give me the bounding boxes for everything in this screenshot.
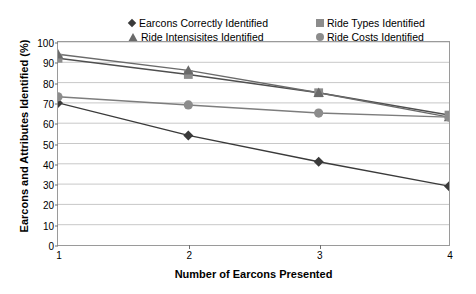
x-axis-title: Number of Earcons Presented bbox=[57, 268, 450, 280]
data-point-marker bbox=[184, 100, 193, 109]
y-axis-tick-label: 0 bbox=[48, 241, 54, 252]
data-point-marker bbox=[314, 108, 323, 117]
y-axis-tick-mark bbox=[55, 246, 58, 247]
y-axis-tick-label: 60 bbox=[43, 119, 54, 130]
y-axis-tick-mark bbox=[55, 205, 58, 206]
y-axis-tick-mark bbox=[55, 63, 58, 64]
y-axis-tick-mark bbox=[55, 83, 58, 84]
circle-marker-icon bbox=[316, 33, 324, 41]
x-axis-tick-label: 3 bbox=[317, 250, 323, 261]
plot-area: 01020304050607080901001234 bbox=[57, 41, 450, 246]
y-axis-tick-mark bbox=[55, 164, 58, 165]
data-point-marker bbox=[314, 157, 324, 167]
y-axis-tick-mark bbox=[55, 43, 58, 44]
data-point-marker bbox=[444, 181, 449, 191]
series-line bbox=[58, 97, 449, 117]
x-axis-tick-label: 2 bbox=[187, 250, 193, 261]
legend-label: Ride Types Identified bbox=[327, 17, 425, 29]
y-axis-tick-label: 20 bbox=[43, 200, 54, 211]
legend-label: Earcons Correctly Identified bbox=[139, 17, 268, 29]
series-line bbox=[58, 54, 449, 117]
y-axis-title: Earcons and Attributes Identified (%) bbox=[18, 20, 30, 252]
square-marker-icon bbox=[316, 19, 324, 27]
y-axis-tick-label: 40 bbox=[43, 159, 54, 170]
legend-item-ride-types-identified: Ride Types Identified bbox=[316, 16, 425, 30]
y-axis-tick-mark bbox=[55, 124, 58, 125]
y-axis-tick-label: 100 bbox=[37, 38, 54, 49]
y-axis-tick-label: 10 bbox=[43, 220, 54, 231]
chart-canvas bbox=[58, 42, 449, 245]
chart-figure: Earcons Correctly Identified Ride Types … bbox=[0, 0, 476, 294]
y-axis-tick-label: 80 bbox=[43, 78, 54, 89]
data-point-marker bbox=[183, 130, 193, 140]
data-point-marker bbox=[58, 49, 63, 58]
y-axis-tick-label: 70 bbox=[43, 98, 54, 109]
y-axis-tick-mark bbox=[55, 144, 58, 145]
y-axis-tick-mark bbox=[55, 185, 58, 186]
x-axis-tick-label: 4 bbox=[447, 250, 453, 261]
diamond-marker-icon bbox=[128, 19, 136, 27]
y-axis-tick-label: 90 bbox=[43, 58, 54, 69]
legend-item-earcons-correctly-identified: Earcons Correctly Identified bbox=[128, 16, 268, 30]
y-axis-tick-mark bbox=[55, 225, 58, 226]
x-axis-tick-mark bbox=[189, 245, 190, 249]
x-axis-tick-label: 1 bbox=[56, 250, 62, 261]
y-axis-tick-label: 30 bbox=[43, 180, 54, 191]
y-axis-tick-label: 50 bbox=[43, 139, 54, 150]
data-point-marker bbox=[58, 92, 63, 101]
x-axis-tick-mark bbox=[320, 245, 321, 249]
y-axis-tick-mark bbox=[55, 103, 58, 104]
